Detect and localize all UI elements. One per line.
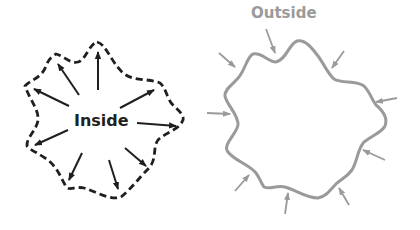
arrow-outward-icon [109, 160, 118, 189]
outside-solid-boundary [225, 41, 386, 198]
arrow-inward-icon [207, 113, 230, 114]
inside-label: Inside [74, 111, 129, 130]
arrow-inward-icon [332, 51, 344, 68]
arrow-outward-icon [34, 89, 69, 106]
arrow-inward-icon [285, 193, 288, 214]
arrow-inward-icon [376, 98, 397, 102]
arrow-outward-icon [125, 148, 146, 166]
arrow-inward-icon [219, 53, 235, 67]
arrow-outward-icon [137, 123, 176, 126]
arrow-inward-icon [339, 188, 349, 205]
diagram-canvas [0, 0, 420, 230]
arrow-outward-icon [35, 130, 68, 145]
arrow-outward-icon [120, 90, 154, 108]
arrow-inward-icon [235, 175, 249, 191]
arrow-inward-icon [363, 150, 385, 160]
outside-shape [207, 29, 397, 214]
arrow-inward-icon [266, 29, 275, 53]
arrow-outward-icon [58, 64, 79, 95]
arrow-outward-icon [69, 153, 82, 180]
outside-label: Outside [251, 4, 317, 22]
